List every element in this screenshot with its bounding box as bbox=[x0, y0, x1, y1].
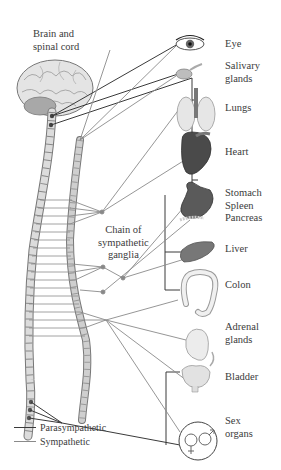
brain-icon bbox=[17, 60, 93, 116]
organ-label-adrenal: Adrenal glands bbox=[225, 321, 259, 346]
organ-label-bladder: Bladder bbox=[225, 371, 258, 384]
adrenal-glands-icon bbox=[186, 329, 209, 360]
sex-organs-icon bbox=[179, 422, 217, 460]
parasympathetic-line-swatch bbox=[14, 427, 36, 428]
organ-label-eye: Eye bbox=[225, 38, 241, 51]
organ-label-liver: Liver bbox=[225, 243, 248, 256]
heart-icon bbox=[182, 132, 212, 174]
legend-item-parasympathetic: Parasympathetic bbox=[14, 422, 106, 433]
organ-label-heart: Heart bbox=[225, 146, 248, 159]
organ-label-stomach: Stomach Spleen Pancreas bbox=[225, 187, 262, 225]
spinal-cord-icon bbox=[27, 112, 54, 436]
autonomic-nervous-system-diagram: Brain and spinal cord Chain of sympathet… bbox=[0, 0, 281, 470]
liver-icon bbox=[180, 242, 214, 262]
sympathetic-line-swatch bbox=[14, 441, 36, 442]
eye-icon bbox=[176, 36, 204, 51]
brain-label: Brain and spinal cord bbox=[33, 28, 79, 53]
colon-icon bbox=[184, 272, 216, 314]
legend-item-sympathetic: Sympathetic bbox=[14, 436, 90, 447]
organ-label-sex: Sex organs bbox=[225, 415, 253, 440]
organ-label-colon: Colon bbox=[225, 279, 251, 292]
organ-label-salivary: Salivary glands bbox=[225, 60, 260, 85]
lungs-icon bbox=[177, 88, 215, 131]
salivary-glands-icon bbox=[176, 64, 202, 79]
ganglia-label: Chain of sympathetic ganglia bbox=[98, 224, 149, 262]
stomach-spleen-pancreas-icon bbox=[180, 182, 213, 220]
organ-label-lungs: Lungs bbox=[225, 102, 251, 115]
